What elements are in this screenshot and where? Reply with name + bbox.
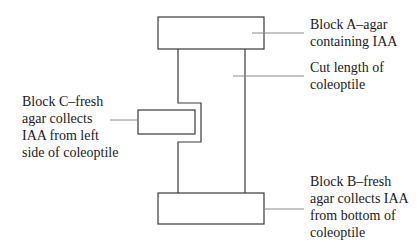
label-line: IAA from left [22, 127, 118, 144]
label-block-a: Block A–agar containing IAA [310, 16, 397, 50]
label-line: side of coleoptile [22, 144, 118, 161]
block-b [158, 193, 264, 224]
label-line: agar collects [22, 110, 118, 127]
label-line: coleoptile [310, 224, 409, 241]
block-a [158, 17, 264, 49]
block-c [138, 110, 195, 134]
label-line: coleoptile [310, 76, 384, 93]
label-line: Block A–agar [310, 16, 397, 33]
label-line: Block B–fresh [310, 173, 409, 190]
label-line: Cut length of [310, 59, 384, 76]
label-block-b: Block B–fresh agar collects IAA from bot… [310, 173, 409, 241]
label-line: from bottom of [310, 207, 409, 224]
label-block-c: Block C–fresh agar collects IAA from lef… [22, 93, 118, 161]
label-line: Block C–fresh [22, 93, 118, 110]
label-line: agar collects IAA [310, 190, 409, 207]
label-cut-length: Cut length of coleoptile [310, 59, 384, 93]
label-line: containing IAA [310, 33, 397, 50]
